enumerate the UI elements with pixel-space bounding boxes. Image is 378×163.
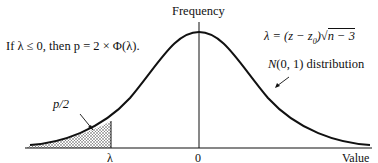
rule-text: If λ ≤ 0, then p = 2 × Φ(λ). xyxy=(6,40,140,53)
curve-label: N(0, 1) distribution xyxy=(268,58,364,71)
formula-text: λ = (z − z0)√n − 3 xyxy=(264,30,355,46)
x-tick-zero: 0 xyxy=(195,152,201,163)
normal-curve-diagram xyxy=(0,0,378,163)
curve-label-rest: (0, 1) distribution xyxy=(276,57,364,71)
radical-icon: √ xyxy=(321,29,328,43)
curve-label-arrow xyxy=(277,77,289,86)
formula-radicand: n − 3 xyxy=(328,28,355,43)
shaded-region-label: p/2 xyxy=(53,98,69,111)
x-tick-lambda: λ xyxy=(107,152,113,163)
formula-lhs: λ = (z − z xyxy=(264,29,313,43)
x-axis-label: Value xyxy=(342,152,369,163)
arrow-head-icon xyxy=(275,83,280,88)
y-axis-label: Frequency xyxy=(172,5,225,18)
